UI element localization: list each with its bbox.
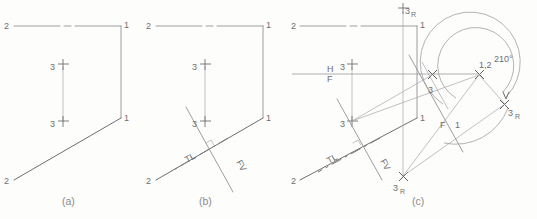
panel-c-label-tl: TL: [325, 152, 339, 166]
panel-a-label-2-bottom: 2: [4, 176, 9, 186]
panel-c-arc-arrowhead: [503, 92, 509, 99]
panel-c-label-angle: 210°: [494, 54, 513, 64]
panel-c-label-3r-bottom-sub: R: [400, 188, 405, 195]
panel-b-label-1-top: 1: [266, 20, 271, 30]
panel-c-label-f: F: [327, 74, 333, 84]
panel-c-label-aux-1: 1: [455, 120, 460, 130]
panel-c-connector-center-right: [479, 75, 505, 104]
panel-b-right-angle-marker: [206, 140, 214, 145]
caption-c: (c): [412, 195, 424, 207]
panel-c-label-3r-top-sub: R: [411, 11, 416, 18]
panel-c-band-lower-edge: [403, 104, 505, 176]
panel-a-diagonal: [14, 118, 121, 180]
panel-b-label-3-upper: 3: [192, 62, 197, 72]
panel-a-label-2-top: 2: [4, 21, 9, 31]
panel-c-diagonal: [300, 118, 417, 180]
panel-c-lower-swing-arc: [444, 108, 508, 144]
panel-c-label-3-upper: 3: [340, 62, 345, 72]
panel-c-label-aux-f: F: [440, 120, 446, 130]
panel-b-label-3-lower: 3: [192, 119, 197, 129]
panel-c-label-2-bottom: 2: [291, 176, 296, 186]
panel-c-label-pivot-3: 3: [428, 85, 433, 95]
panel-b-labels: 2 1 1 2 3 3 TL FV (b): [146, 20, 271, 207]
panel-c-label-1-mid: 1: [420, 113, 425, 123]
panel-c-label-2-top: 2: [291, 21, 296, 31]
panel-a-label-3-lower: 3: [50, 119, 55, 129]
caption-b: (b): [199, 195, 212, 207]
panel-a-label-1-top: 1: [124, 20, 129, 30]
panel-c-label-3-lower: 3: [340, 119, 345, 129]
panel-a-geometry: [14, 26, 121, 180]
panel-c-labels: 2 1 1 2 3 3 H F F 1 1,2 210° TL FV 3 R 3…: [291, 6, 520, 207]
panel-b-label-2-top: 2: [146, 21, 151, 31]
panel-c-label-1-top: 1: [420, 20, 425, 30]
panel-b-label-2-bottom: 2: [146, 176, 151, 186]
panel-c-label-h: H: [327, 64, 334, 74]
panel-c-geometry: [292, 3, 520, 181]
panel-a-labels: 2 1 1 2 3 3 (a): [4, 20, 129, 207]
panel-c-label-center: 1,2: [479, 60, 492, 70]
panel-a-label-1-mid: 1: [124, 113, 129, 123]
panel-c-label-3r-bottom: 3: [393, 183, 398, 193]
panel-c-label-3r-top: 3: [405, 6, 410, 16]
panel-c-left-perpendicular: [337, 99, 382, 180]
figure-root: 2 1 1 2 3 3 (a): [0, 0, 537, 219]
caption-a: (a): [62, 195, 75, 207]
panel-b-label-fv: FV: [234, 158, 248, 173]
panel-c-label-3r-right-sub: R: [515, 113, 520, 120]
panel-c-right-angle-marker: [353, 140, 361, 145]
panel-b-label-1-mid: 1: [266, 113, 271, 123]
panel-c-label-fv: FV: [378, 157, 392, 172]
technical-drawing-svg: 2 1 1 2 3 3 (a): [0, 0, 537, 219]
panel-a-label-3-upper: 3: [50, 62, 55, 72]
panel-c-label-3r-right: 3: [508, 108, 513, 118]
panel-c-band-upper-edge: [352, 75, 479, 121]
